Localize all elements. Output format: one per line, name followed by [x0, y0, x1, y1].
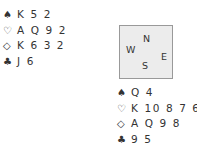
south-spades-cards: Q 4	[131, 86, 154, 98]
south-hand: ♠Q 4 ♡K 10 8 7 6 ◇A Q 9 8 ♣9 5	[117, 85, 197, 147]
north-clubs-row: ♣J 6	[3, 54, 67, 70]
south-spades-row: ♠Q 4	[117, 85, 197, 101]
north-hand: ♠K 5 2 ♡A Q 9 2 ◇K 6 3 2 ♣J 6	[3, 7, 67, 69]
diamond-icon: ◇	[3, 38, 17, 54]
south-diamonds-cards: A Q 9 8	[131, 117, 181, 129]
compass-box: N W E S	[119, 25, 173, 79]
north-hearts-cards: A Q 9 2	[17, 24, 67, 36]
compass-east: E	[161, 51, 167, 62]
compass-south: S	[142, 60, 148, 71]
north-hearts-row: ♡A Q 9 2	[3, 23, 67, 39]
compass-west: W	[126, 44, 135, 55]
heart-icon: ♡	[3, 23, 17, 39]
south-hearts-cards: K 10 8 7 6	[131, 102, 197, 114]
club-icon: ♣	[117, 132, 131, 148]
south-diamonds-row: ◇A Q 9 8	[117, 116, 197, 132]
spade-icon: ♠	[117, 85, 131, 101]
heart-icon: ♡	[117, 101, 131, 117]
south-clubs-row: ♣9 5	[117, 132, 197, 148]
club-icon: ♣	[3, 54, 17, 70]
diamond-icon: ◇	[117, 116, 131, 132]
south-clubs-cards: 9 5	[131, 133, 153, 145]
compass-north: N	[143, 33, 150, 44]
north-spades-cards: K 5 2	[17, 8, 52, 20]
north-spades-row: ♠K 5 2	[3, 7, 67, 23]
north-diamonds-row: ◇K 6 3 2	[3, 38, 67, 54]
spade-icon: ♠	[3, 7, 17, 23]
north-clubs-cards: J 6	[17, 55, 35, 67]
south-hearts-row: ♡K 10 8 7 6	[117, 101, 197, 117]
north-diamonds-cards: K 6 3 2	[17, 39, 65, 51]
